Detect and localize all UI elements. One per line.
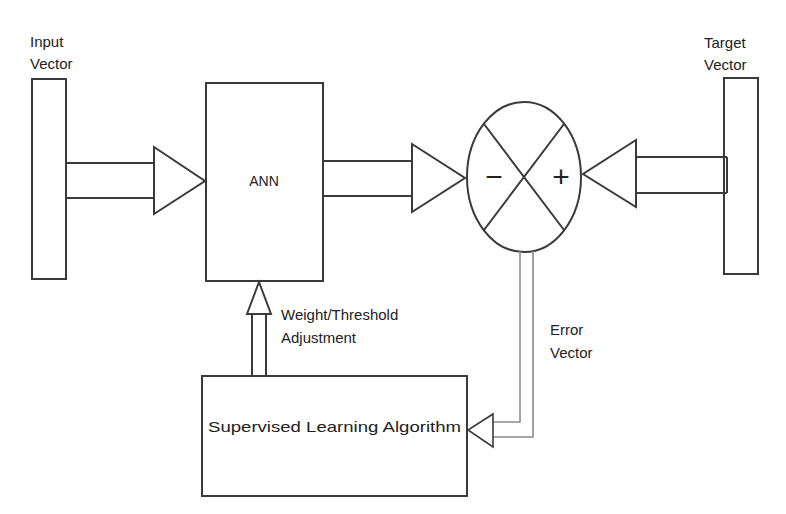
weight-adjustment-label-line1: Weight/Threshold: [281, 306, 398, 323]
error-vector-label-line2: Vector: [550, 344, 593, 361]
input-vector-label-line2: Vector: [30, 55, 73, 72]
target-vector-bar: [724, 78, 758, 274]
input-to-ann-arrow: [66, 147, 205, 214]
learning-algorithm-label: Supervised Learning Algorithm: [208, 418, 461, 435]
input-vector-label-line1: Input: [30, 33, 64, 50]
weight-adjustment-label-line2: Adjustment: [281, 329, 357, 346]
learning-algorithm-box: [202, 376, 467, 496]
input-vector-bar: [32, 79, 66, 279]
ann-to-comparator-arrow: [323, 144, 465, 212]
target-vector-label-line1: Target: [704, 34, 747, 51]
comparator-plus-sign: +: [552, 160, 570, 193]
target-vector-label-line2: Vector: [704, 56, 747, 73]
error-vector-arrow: [468, 251, 533, 447]
error-vector-label-line1: Error: [550, 321, 583, 338]
target-to-comparator-arrow: [583, 140, 727, 207]
weight-adjustment-arrow: [247, 282, 271, 377]
ann-supervised-learning-diagram: Input Vector ANN − + Target Vector Weigh…: [0, 0, 786, 514]
comparator-minus-sign: −: [485, 160, 503, 193]
ann-label: ANN: [249, 173, 279, 189]
